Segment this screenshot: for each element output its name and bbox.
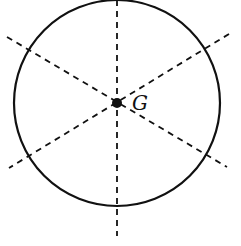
centroid-label: G	[132, 91, 148, 115]
circle-symmetry-diagram: G	[0, 0, 241, 246]
centroid-point	[112, 98, 122, 108]
